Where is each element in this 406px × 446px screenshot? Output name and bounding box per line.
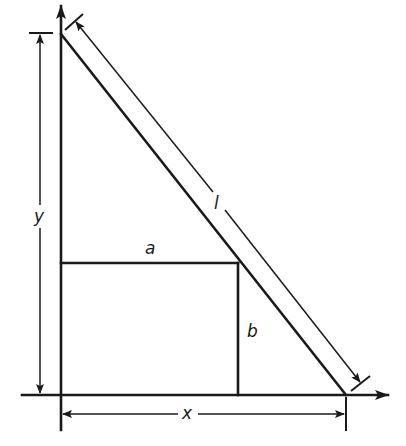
label-a: a — [145, 238, 155, 258]
label-x: x — [181, 403, 193, 423]
label-l: l — [214, 193, 219, 213]
label-b: b — [247, 321, 258, 341]
l-dimension-lower — [225, 210, 360, 382]
l-dimension-bottom-tick — [351, 376, 370, 391]
label-y: y — [33, 206, 45, 226]
ladder-line — [61, 34, 346, 395]
l-dimension-upper — [76, 22, 213, 192]
ladder-box-diagram: y x l a b — [0, 0, 406, 446]
